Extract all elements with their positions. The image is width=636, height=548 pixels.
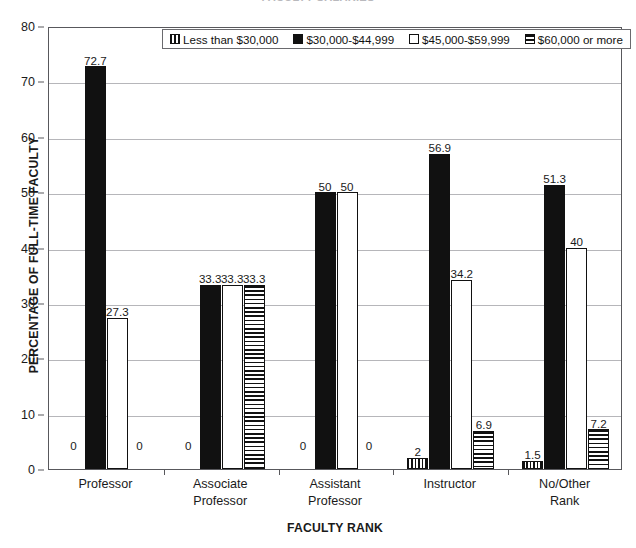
bar[interactable]: 50 xyxy=(315,192,336,469)
bar[interactable]: 33.3 xyxy=(222,285,243,469)
x-axis-title: FACULTY RANK xyxy=(48,521,622,535)
bar[interactable]: 56.9 xyxy=(429,154,450,469)
y-tick-label: 40 xyxy=(21,242,35,256)
bar-group: 1.551.3407.2 xyxy=(522,28,609,469)
bar-value-label: 1.5 xyxy=(525,449,541,461)
legend-label: Less than $30,000 xyxy=(183,33,278,46)
x-axis-category-label: No/OtherRank xyxy=(539,476,590,510)
x-axis-category-label: AssociateProfessor xyxy=(193,476,248,510)
y-tick-mark xyxy=(38,248,44,249)
bar-value-label: 27.3 xyxy=(106,306,129,318)
bar-slot: 72.7 xyxy=(85,28,106,469)
bar-slot: 56.9 xyxy=(429,28,450,469)
bar-slot: 0 xyxy=(359,28,380,469)
y-tick-mark xyxy=(38,82,44,83)
bar-value-label: 40 xyxy=(570,236,583,248)
bar-slot: 0 xyxy=(129,28,150,469)
chart-legend: Less than $30,000$30,000-$44,999$45,000-… xyxy=(162,29,631,49)
bar[interactable]: 6.9 xyxy=(473,431,494,469)
bar-value-label: 50 xyxy=(341,181,354,193)
x-tick-mark xyxy=(508,469,509,475)
y-tick-label: 80 xyxy=(21,20,35,34)
x-tick-mark xyxy=(393,469,394,475)
legend-item[interactable]: Less than $30,000 xyxy=(170,33,278,46)
bar-slot: 7.2 xyxy=(588,28,609,469)
bar[interactable]: 34.2 xyxy=(451,280,472,469)
bar-value-label: 34.2 xyxy=(451,268,474,280)
bar-slot: 40 xyxy=(566,28,587,469)
bar[interactable]: 50 xyxy=(337,192,358,469)
bar[interactable]: 1.5 xyxy=(522,461,543,469)
bar-value-label: 2 xyxy=(415,446,421,458)
bar[interactable]: 7.2 xyxy=(588,429,609,469)
bar-slot: 50 xyxy=(315,28,336,469)
bar-value-label: 33.3 xyxy=(221,273,244,285)
bar[interactable]: 27.3 xyxy=(107,318,128,469)
legend-label: $60,000 or more xyxy=(538,33,623,46)
x-tick-mark xyxy=(164,469,165,475)
bar-group: 033.333.333.3 xyxy=(178,28,265,469)
plot-area: 072.727.30033.333.333.3050500256.934.26.… xyxy=(48,27,622,470)
y-tick-label: 20 xyxy=(21,352,35,366)
x-axis-category-label: AssistantProfessor xyxy=(308,476,362,510)
x-axis: ProfessorAssociateProfessorAssistantProf… xyxy=(48,476,622,518)
bar-slot: 34.2 xyxy=(451,28,472,469)
bar-slot: 33.3 xyxy=(244,28,265,469)
bar-value-label: 50 xyxy=(319,181,332,193)
bar-value-label: 0 xyxy=(185,440,191,452)
bar[interactable]: 33.3 xyxy=(244,285,265,469)
y-tick-label: 30 xyxy=(21,297,35,311)
legend-swatch-icon xyxy=(525,34,535,44)
x-axis-category-label: Professor xyxy=(78,476,132,493)
legend-item[interactable]: $60,000 or more xyxy=(525,33,623,46)
legend-item[interactable]: $30,000-$44,999 xyxy=(293,33,394,46)
bar-slot: 33.3 xyxy=(222,28,243,469)
bar-slot: 6.9 xyxy=(473,28,494,469)
y-tick-label: 50 xyxy=(21,186,35,200)
bar[interactable]: 2 xyxy=(407,458,428,469)
bar[interactable]: 33.3 xyxy=(200,285,221,469)
bar-slot: 0 xyxy=(178,28,199,469)
y-tick-mark xyxy=(38,193,44,194)
x-axis-category-label: Instructor xyxy=(424,476,477,493)
bar-slot: 0 xyxy=(293,28,314,469)
bar-slot: 2 xyxy=(407,28,428,469)
bar-slot: 1.5 xyxy=(522,28,543,469)
bar-slot: 27.3 xyxy=(107,28,128,469)
bar[interactable]: 51.3 xyxy=(544,185,565,469)
legend-label: $30,000-$44,999 xyxy=(306,33,394,46)
bar-value-label: 72.7 xyxy=(84,55,107,67)
legend-label: $45,000-$59,999 xyxy=(422,33,510,46)
legend-swatch-icon xyxy=(170,34,180,44)
legend-swatch-icon xyxy=(293,34,303,44)
y-axis: 01020304050607080 xyxy=(0,27,44,470)
y-tick-label: 70 xyxy=(21,75,35,89)
bar-slot: 51.3 xyxy=(544,28,565,469)
chart-title: FACULTY SALARIES xyxy=(0,0,636,3)
bar[interactable]: 40 xyxy=(566,248,587,470)
bar-group: 050500 xyxy=(293,28,380,469)
y-tick-mark xyxy=(38,27,44,28)
legend-swatch-icon xyxy=(409,34,419,44)
bar-value-label: 33.3 xyxy=(243,273,266,285)
bar[interactable]: 72.7 xyxy=(85,66,106,469)
y-tick-mark xyxy=(38,470,44,471)
bar-value-label: 0 xyxy=(136,440,142,452)
bar-slot: 0 xyxy=(63,28,84,469)
bar-group: 072.727.30 xyxy=(63,28,150,469)
y-tick-mark xyxy=(38,359,44,360)
bar-value-label: 0 xyxy=(70,440,76,452)
y-tick-mark xyxy=(38,137,44,138)
y-tick-label: 60 xyxy=(21,131,35,145)
bar-slot: 50 xyxy=(337,28,358,469)
bar-slot: 33.3 xyxy=(200,28,221,469)
bar-value-label: 56.9 xyxy=(429,142,452,154)
y-tick-mark xyxy=(38,303,44,304)
bar-value-label: 0 xyxy=(300,440,306,452)
bar-value-label: 51.3 xyxy=(543,173,566,185)
legend-item[interactable]: $45,000-$59,999 xyxy=(409,33,510,46)
bar-value-label: 6.9 xyxy=(476,419,492,431)
bar-value-label: 7.2 xyxy=(591,418,607,430)
y-tick-mark xyxy=(38,414,44,415)
bar-group: 256.934.26.9 xyxy=(407,28,494,469)
